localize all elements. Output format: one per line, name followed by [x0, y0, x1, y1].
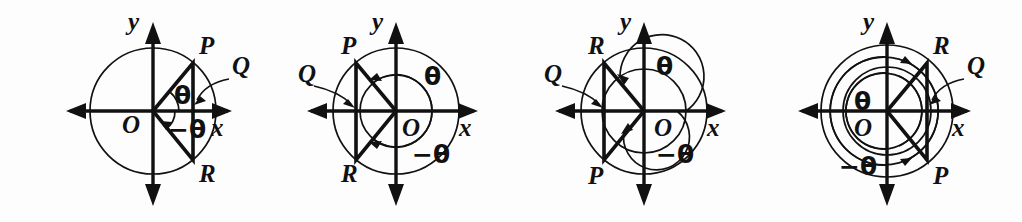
y-axis-arrowhead-up	[388, 22, 404, 44]
label-axis-y: y	[125, 8, 140, 35]
y-axis-arrowhead-down	[636, 184, 652, 206]
label-angle-theta: θ	[424, 62, 441, 91]
label-origin: O	[654, 114, 672, 141]
label-origin: O	[402, 114, 420, 141]
label-axis-x: x	[706, 114, 720, 141]
label-point-q: Q	[544, 60, 562, 87]
panel-1-canvas: P R Q O x y θ −θ	[0, 0, 256, 222]
label-point-p: P	[587, 162, 604, 189]
label-point-r: R	[198, 160, 216, 187]
q-leader-arrowhead	[929, 96, 941, 105]
q-leader-line	[314, 86, 351, 104]
label-angle-negative-theta: −θ	[656, 140, 694, 169]
label-axis-y: y	[860, 8, 875, 35]
label-axis-x: x	[210, 114, 224, 141]
label-point-q: Q	[232, 52, 250, 79]
y-axis-arrowhead-down	[388, 184, 404, 206]
label-point-p: P	[932, 162, 949, 189]
panel-2-canvas: P R Q O x y θ −θ	[256, 0, 504, 222]
q-leader-arrowhead	[343, 99, 355, 108]
label-angle-negative-theta: −θ	[839, 152, 877, 181]
label-point-p: P	[198, 32, 215, 59]
q-leader-arrowhead	[194, 96, 206, 105]
panel-4-canvas: R P Q O x y θ −θ	[766, 0, 1022, 222]
label-point-r: R	[340, 160, 358, 187]
label-origin: O	[122, 111, 140, 138]
diagram-panel-2: P R Q O x y θ −θ	[256, 0, 504, 222]
label-point-q: Q	[298, 60, 316, 87]
label-angle-theta: θ	[174, 81, 191, 110]
y-axis-arrowhead-down	[145, 184, 161, 206]
q-leader-line	[562, 86, 599, 104]
label-axis-x: x	[951, 114, 965, 141]
theta-arc-negative-arrowhead	[369, 141, 382, 149]
diagram-panel-1: P R Q O x y θ −θ	[0, 0, 256, 222]
label-point-r: R	[932, 32, 950, 59]
label-angle-negative-theta: −θ	[168, 115, 206, 144]
label-axis-x: x	[458, 114, 472, 141]
label-angle-theta: θ	[854, 87, 871, 116]
label-angle-negative-theta: −θ	[412, 140, 450, 169]
x-axis-arrowhead-left	[66, 103, 86, 119]
diagram-panel-4: R P Q O x y θ −θ	[766, 0, 1022, 222]
x-axis-arrowhead-left	[798, 103, 818, 119]
label-origin: O	[854, 114, 872, 141]
label-point-r: R	[587, 32, 605, 59]
y-axis-arrowhead-up	[879, 22, 895, 44]
panel-3-canvas: R P Q O x y θ −θ	[504, 0, 766, 222]
q-leader-arrowhead	[591, 99, 603, 108]
y-axis-arrowhead-up	[636, 22, 652, 44]
label-axis-y: y	[617, 8, 632, 35]
x-axis-arrowhead-left	[307, 103, 327, 119]
y-axis-arrowhead-up	[145, 22, 161, 44]
label-point-q: Q	[967, 52, 985, 79]
four-unit-circle-diagrams: P R Q O x y θ −θ	[0, 0, 1022, 222]
theta-arc-positive-arrowhead	[369, 73, 382, 81]
y-axis-arrowhead-down	[879, 184, 895, 206]
label-angle-theta: θ	[656, 52, 673, 81]
label-axis-y: y	[369, 8, 384, 35]
x-axis-arrowhead-left	[555, 103, 575, 119]
label-point-p: P	[340, 32, 357, 59]
diagram-panel-3: R P Q O x y θ −θ	[504, 0, 766, 222]
